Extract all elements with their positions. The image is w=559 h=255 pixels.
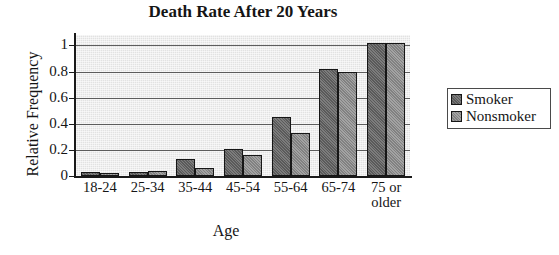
y-axis-line	[74, 33, 76, 178]
y-axis-tick	[69, 98, 76, 99]
bar-nonsmoker-45-54	[243, 155, 262, 176]
y-axis-tick-label: 0.6	[26, 90, 68, 105]
y-axis-tick	[69, 72, 76, 73]
x-axis-tick-label: 75 or older	[356, 180, 416, 210]
y-axis-tick	[69, 124, 76, 125]
y-axis-tick	[69, 150, 76, 151]
chart-figure: Death Rate After 20 Years Relative Frequ…	[0, 0, 559, 255]
x-axis-title: Age	[76, 222, 376, 240]
bar-smoker-35-44	[176, 159, 195, 176]
bar-nonsmoker-55-64	[291, 133, 310, 176]
legend-item-nonsmoker: Nonsmoker	[451, 108, 547, 125]
bar-smoker-65-74	[319, 69, 338, 176]
bar-nonsmoker-65-74	[338, 72, 357, 176]
plot-area	[76, 35, 410, 176]
y-axis-tick	[69, 176, 76, 177]
y-axis-tick-label: 0.2	[26, 142, 68, 157]
gridline	[76, 124, 410, 125]
gridline	[76, 45, 410, 46]
legend-label-smoker: Smoker	[466, 92, 513, 107]
legend-label-nonsmoker: Nonsmoker	[466, 109, 536, 124]
bar-smoker-75-or-older	[367, 43, 386, 176]
bar-smoker-45-54	[224, 149, 243, 176]
chart-title: Death Rate After 20 Years	[76, 2, 410, 22]
y-axis-tick-label: 0.4	[26, 116, 68, 131]
gridline	[76, 98, 410, 99]
chart-legend: Smoker Nonsmoker	[447, 88, 551, 129]
gridline	[76, 72, 410, 73]
bar-nonsmoker-35-44	[195, 168, 214, 176]
gridline	[76, 150, 410, 151]
x-axis-tick-labels: 18-2425-3435-4445-5455-6465-7475 or olde…	[76, 180, 410, 224]
bar-nonsmoker-75-or-older	[386, 43, 405, 176]
legend-swatch-smoker-icon	[451, 94, 462, 105]
y-axis-tick-label: 1	[26, 37, 68, 52]
legend-swatch-nonsmoker-icon	[451, 111, 462, 122]
x-axis-line	[74, 176, 412, 178]
y-axis-tick-label: 0.8	[26, 64, 68, 79]
bar-smoker-55-64	[272, 117, 291, 176]
y-axis-tick-label: 0	[26, 168, 68, 183]
y-axis-tick	[69, 45, 76, 46]
y-axis-tick-labels: 00.20.40.60.81	[22, 0, 68, 255]
legend-item-smoker: Smoker	[451, 91, 547, 108]
